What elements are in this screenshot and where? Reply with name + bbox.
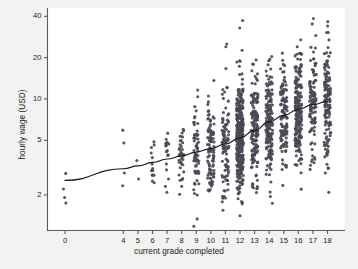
scatter-point <box>179 143 182 146</box>
y-tick-label: 2 <box>20 190 42 199</box>
scatter-point <box>279 67 282 70</box>
scatter-point <box>226 174 229 177</box>
scatter-point <box>255 165 258 168</box>
scatter-point <box>310 127 313 130</box>
scatter-point <box>310 107 313 110</box>
scatter-point <box>196 217 199 220</box>
scatter-point <box>282 145 285 148</box>
scatter-point <box>327 31 330 34</box>
scatter-point <box>209 119 212 122</box>
scatter-point <box>194 137 197 140</box>
scatter-point <box>323 88 326 91</box>
scatter-point <box>241 128 244 131</box>
scatter-point <box>271 82 274 85</box>
scatter-point <box>206 103 209 106</box>
scatter-point <box>221 88 224 91</box>
scatter-point <box>294 80 297 83</box>
scatter-point <box>271 202 274 205</box>
scatter-point <box>240 172 243 175</box>
scatter-point <box>300 188 303 191</box>
scatter-point <box>193 183 196 186</box>
scatter-point <box>165 162 168 165</box>
scatter-point <box>313 142 316 145</box>
scatter-point <box>64 201 67 204</box>
y-axis-title: hourly wage (USD) <box>18 55 27 195</box>
scatter-point <box>223 140 226 143</box>
scatter-point <box>181 163 184 166</box>
scatter-point <box>181 135 184 138</box>
scatter-point <box>323 132 326 135</box>
scatter-point <box>282 134 285 137</box>
scatter-point <box>325 51 328 54</box>
scatter-point <box>251 82 254 85</box>
scatter-point <box>151 167 154 170</box>
scatter-point <box>252 186 255 189</box>
scatter-point <box>254 145 257 148</box>
scatter-point <box>241 49 244 52</box>
scatter-point <box>165 168 168 171</box>
scatter-point <box>294 70 297 73</box>
scatter-point <box>327 191 330 194</box>
scatter-point <box>313 86 316 89</box>
scatter-point <box>237 129 240 132</box>
scatter-point <box>283 79 286 82</box>
scatter-point <box>313 133 316 136</box>
scatter-point <box>195 109 198 112</box>
scatter-point <box>182 129 185 132</box>
scatter-point <box>241 19 244 22</box>
y-tick-label: 10 <box>20 94 42 103</box>
scatter-point <box>221 93 224 96</box>
scatter-point <box>269 181 272 184</box>
scatter-point <box>328 76 331 79</box>
scatter-point <box>150 146 153 149</box>
scatter-point <box>252 138 255 141</box>
y-tick-label: 40 <box>20 11 42 20</box>
scatter-point <box>299 75 302 78</box>
scatter-point <box>255 58 258 61</box>
scatter-point <box>280 150 283 153</box>
scatter-point <box>268 81 271 84</box>
scatter-point <box>250 69 253 72</box>
scatter-point <box>265 74 268 77</box>
scatter-point <box>326 105 329 108</box>
scatter-point <box>279 129 282 132</box>
scatter-point <box>311 154 314 157</box>
scatter-point <box>285 136 288 139</box>
scatter-point <box>240 162 243 165</box>
scatter-point <box>254 92 257 95</box>
scatter-point <box>251 134 254 137</box>
scatter-point <box>300 115 303 118</box>
scatter-point <box>165 138 168 141</box>
scatter-point <box>299 38 302 41</box>
scatter-point <box>285 125 288 128</box>
scatter-point <box>212 79 215 82</box>
scatter-point <box>313 158 316 161</box>
scatter-point <box>296 130 299 133</box>
scatter-point <box>240 99 243 102</box>
scatter-point <box>327 55 330 58</box>
scatter-point <box>310 117 313 120</box>
scatter-point <box>235 98 238 101</box>
scatter-point <box>329 51 332 54</box>
scatter-point <box>241 182 244 185</box>
scatter-point <box>268 104 271 107</box>
scatter-point <box>195 160 198 163</box>
scatter-point <box>293 65 296 68</box>
scatter-point <box>281 168 284 171</box>
x-tick-label: 18 <box>319 236 337 245</box>
scatter-point <box>164 144 167 147</box>
scatter-point <box>269 67 272 70</box>
scatter-point <box>311 99 314 102</box>
scatter-point <box>62 187 65 190</box>
scatter-point <box>167 153 170 156</box>
scatter-point <box>178 147 181 150</box>
scatter-point <box>266 164 269 167</box>
scatter-point <box>255 187 258 190</box>
scatter-point <box>195 145 198 148</box>
scatter-point <box>221 200 224 203</box>
scatter-point <box>208 181 211 184</box>
scatter-point <box>165 150 168 153</box>
scatter-point <box>266 141 269 144</box>
scatter-point <box>265 124 268 127</box>
scatter-point <box>241 78 244 81</box>
